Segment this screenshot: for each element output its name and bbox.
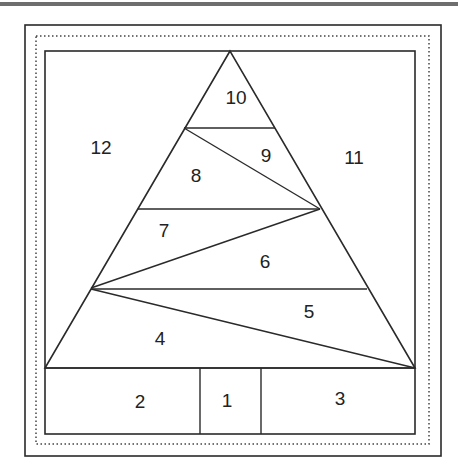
tree-pattern-diagram: 1 2 3 4 5 6 7 8 9 10 11 12: [0, 0, 458, 476]
piece-label-9: 9: [261, 145, 272, 166]
piece-labels: 1 2 3 4 5 6 7 8 9 10 11 12: [90, 87, 363, 412]
piece-label-4: 4: [155, 328, 166, 349]
piece-label-6: 6: [260, 251, 271, 272]
piece-label-11: 11: [344, 147, 364, 168]
piece-label-10: 10: [225, 87, 246, 108]
piece-label-8: 8: [191, 165, 202, 186]
piece-label-12: 12: [90, 137, 111, 158]
piece-label-1: 1: [222, 390, 233, 411]
piece-label-3: 3: [335, 388, 346, 409]
inner-block-border: [45, 51, 415, 434]
piece-6-7-diagonal: [91, 209, 320, 288]
piece-8-9-diagonal: [184, 128, 320, 209]
piece-4-5-diagonal: [91, 289, 415, 368]
piece-label-7: 7: [159, 220, 170, 241]
piece-label-2: 2: [135, 391, 146, 412]
piece-label-5: 5: [304, 301, 315, 322]
